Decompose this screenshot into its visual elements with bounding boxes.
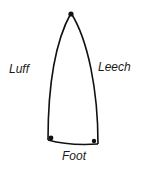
sail-leech-edge — [71, 13, 98, 144]
sail-outline — [0, 0, 146, 173]
leech-label: Leech — [98, 61, 131, 73]
sail-foot-edge — [48, 140, 98, 144]
tack-point-icon — [49, 136, 54, 141]
sail-diagram: Luff Leech Foot — [0, 0, 146, 173]
foot-label: Foot — [62, 150, 86, 162]
sail-luff-edge — [48, 13, 71, 140]
clew-point-icon — [92, 139, 96, 143]
luff-label: Luff — [9, 63, 29, 75]
head-point-icon — [68, 11, 73, 16]
